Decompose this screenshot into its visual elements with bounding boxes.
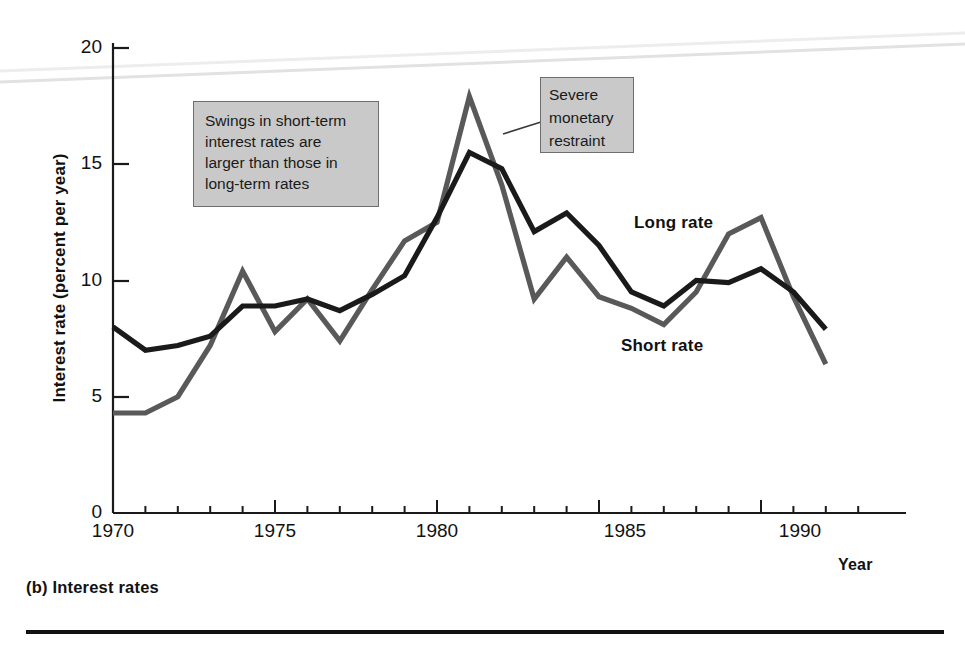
annotation-swings-line3: larger than those in xyxy=(205,152,368,173)
annotation-severe-line3: restraint xyxy=(549,129,633,152)
x-axis-title: Year xyxy=(838,556,873,574)
annotation-severe-line2: monetary xyxy=(549,106,633,129)
x-tick-label-1975: 1975 xyxy=(240,520,310,542)
series-label-long-rate: Long rate xyxy=(634,213,713,233)
figure-interest-rates: 20 15 10 5 0 1970 1975 1980 1985 1990 In… xyxy=(0,0,965,655)
x-tick-label-1985: 1985 xyxy=(590,520,660,542)
y-axis xyxy=(113,43,129,513)
x-axis xyxy=(113,500,906,513)
x-tick-label-1970: 1970 xyxy=(78,520,148,542)
scan-artifact-lines xyxy=(0,33,965,82)
annotation-swings-line4: long-term rates xyxy=(205,173,368,194)
y-tick-label-20: 20 xyxy=(62,36,102,58)
annotation-box-severe-monetary-restraint: Severe monetary restraint xyxy=(540,77,634,153)
chart-canvas xyxy=(0,0,965,655)
x-tick-label-1990: 1990 xyxy=(765,520,835,542)
annotation-box-swings: Swings in short-term interest rates are … xyxy=(193,101,379,207)
annotation-swings-line1: Swings in short-term xyxy=(205,110,368,131)
annotation-swings-line2: interest rates are xyxy=(205,131,368,152)
figure-caption: (b) Interest rates xyxy=(26,578,159,597)
bottom-divider xyxy=(26,630,944,634)
x-tick-label-1980: 1980 xyxy=(402,520,472,542)
y-axis-title: Interest rate (percent per year) xyxy=(50,88,70,468)
annotation-severe-line1: Severe xyxy=(549,83,633,106)
annotation-leader-line xyxy=(503,122,541,134)
series-label-short-rate: Short rate xyxy=(621,336,703,356)
